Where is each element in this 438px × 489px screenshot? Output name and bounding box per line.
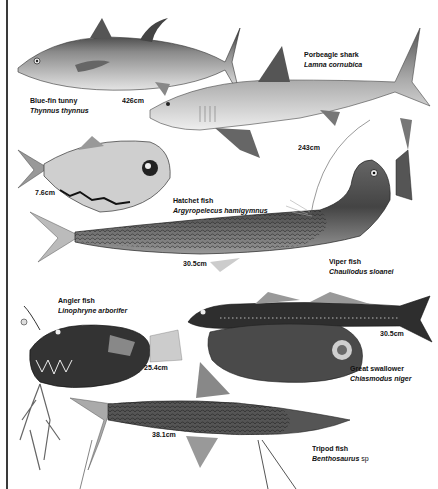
porbeagle-shark-label: Porbeagle shark Lamna cornubica <box>304 50 362 70</box>
angler-fish-illustration <box>20 306 182 470</box>
viper-fish-label: Viper fish Chauliodus sloanei <box>329 257 394 277</box>
common-name: Viper fish <box>329 257 394 267</box>
viper-fish-size: 30.5cm <box>183 259 207 268</box>
common-name: Angler fish <box>58 296 127 306</box>
common-name: Great swallower <box>350 364 411 374</box>
porbeagle-shark-illustration <box>150 28 430 158</box>
latin-name: Linophryne arborifer <box>58 306 127 316</box>
common-name: Hatchet fish <box>173 196 268 206</box>
tripod-fish-label: Tripod fish Benthosaurus sp <box>312 444 369 464</box>
great-swallower-size: 30.5cm <box>380 329 404 338</box>
great-swallower-label: Great swallower Chiasmodus niger <box>350 364 411 384</box>
angler-fish-size: 25.4cm <box>144 363 168 372</box>
latin-name: Chiasmodus niger <box>350 374 411 384</box>
bluefin-tunny-illustration <box>18 18 240 96</box>
hatchet-fish-illustration <box>18 136 170 212</box>
common-name: Blue-fin tunny <box>30 96 89 106</box>
hatchet-fish-size: 7.6cm <box>35 188 55 197</box>
tripod-fish-size: 38.1cm <box>152 430 176 439</box>
latin-name: Lamna cornubica <box>304 60 362 70</box>
latin-name: Thynnus thynnus <box>30 106 89 116</box>
latin-name: Benthosaurus <box>312 454 359 463</box>
porbeagle-shark-size: 243cm <box>298 143 320 152</box>
latin-name: Chauliodus sloanei <box>329 267 394 277</box>
latin-name: Argyropelecus hamigymnus <box>173 206 268 216</box>
common-name: Tripod fish <box>312 444 369 454</box>
latin-suffix: sp <box>361 454 368 463</box>
latin-name-row: Benthosaurus sp <box>312 454 369 463</box>
bluefin-tunny-size: 426cm <box>122 96 144 105</box>
common-name: Porbeagle shark <box>304 50 362 60</box>
bluefin-tunny-label: Blue-fin tunny Thynnus thynnus <box>30 96 89 116</box>
hatchet-fish-label: Hatchet fish Argyropelecus hamigymnus <box>173 196 268 216</box>
fish-plate: Blue-fin tunny Thynnus thynnus 426cm Por… <box>0 0 438 489</box>
angler-fish-label: Angler fish Linophryne arborifer <box>58 296 127 316</box>
fish-illustrations <box>0 0 438 489</box>
